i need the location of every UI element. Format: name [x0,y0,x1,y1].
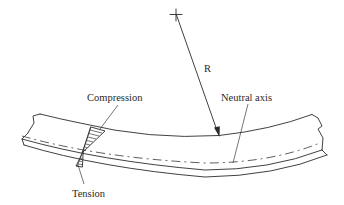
beam-flange-line [22,139,322,170]
curved-beam [22,114,327,177]
compression-label: Compression [87,92,143,103]
radius-arrow [177,15,220,137]
compression-leader-line [100,105,118,129]
tension-label: Tension [72,188,106,199]
center-of-curvature-crosshair-icon [170,9,182,21]
neutral-axis-line [22,136,320,163]
beam-right-break [312,115,327,156]
beam-bending-diagram: R Com [0,0,344,205]
radius-label: R [204,63,211,74]
neutral-axis-label: Neutral axis [221,92,272,103]
beam-left-break [28,114,40,133]
tension-leader-line [78,165,84,184]
beam-top-edge [40,114,312,136]
